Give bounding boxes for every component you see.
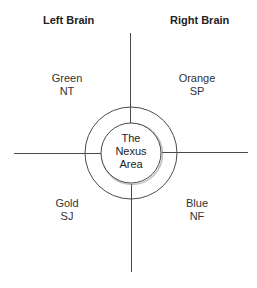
left-brain-heading: Left Brain [43, 14, 94, 27]
quadrant-type-code: NT [50, 85, 84, 98]
right-brain-heading: Right Brain [170, 14, 229, 27]
quadrant-color-name: Green [50, 72, 84, 85]
quadrant-color-name: Gold [52, 197, 82, 210]
center-line-1: The [111, 132, 151, 145]
quadrant-bottom-left: Gold SJ [52, 197, 82, 223]
quadrant-color-name: Blue [182, 197, 212, 210]
center-line-3: Area [111, 158, 151, 171]
quadrant-top-left: Green NT [50, 72, 84, 98]
nexus-area-label: The Nexus Area [111, 132, 151, 171]
quadrant-type-code: SP [176, 85, 218, 98]
quadrant-type-code: SJ [52, 210, 82, 223]
quadrant-bottom-right: Blue NF [182, 197, 212, 223]
quadrant-top-right: Orange SP [176, 72, 218, 98]
quadrant-color-name: Orange [176, 72, 218, 85]
brain-quadrant-diagram: Left Brain Right Brain Green NT Orange S… [0, 0, 257, 288]
quadrant-type-code: NF [182, 210, 212, 223]
center-line-2: Nexus [111, 145, 151, 158]
